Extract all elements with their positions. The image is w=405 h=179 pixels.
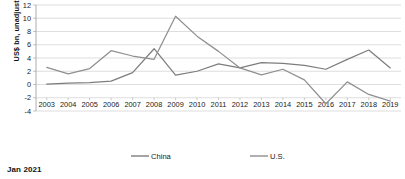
- x-tick-label: 2003: [39, 100, 55, 109]
- y-tick-label: 12: [23, 1, 31, 10]
- x-tick-label: 2009: [167, 100, 183, 109]
- x-tick-label: 2004: [60, 100, 76, 109]
- line-chart-plot: 121086420-2-4 20032004200520062007200820…: [0, 0, 405, 179]
- series-line-u-s: [47, 16, 391, 103]
- x-tick-label: 2015: [296, 100, 312, 109]
- x-tick-label: 2005: [81, 100, 97, 109]
- x-tick-label: 2013: [253, 100, 269, 109]
- x-tick-label: 2014: [275, 100, 291, 109]
- y-tick-label: 2: [27, 67, 31, 76]
- y-tick-label: 8: [27, 27, 31, 36]
- legend-label: U.S.: [270, 152, 285, 161]
- x-tick-label: 2011: [211, 100, 227, 109]
- x-tick-label: 2008: [146, 100, 162, 109]
- x-tick-label: 2012: [232, 100, 248, 109]
- x-tick-label: 2017: [339, 100, 355, 109]
- y-tick-label: 0: [27, 80, 31, 89]
- gridlines: [36, 5, 401, 111]
- y-tick-label: 4: [27, 54, 31, 63]
- y-axis-title: US$ bn, unadjusted: [12, 0, 21, 75]
- y-tick-label: -4: [24, 107, 31, 116]
- x-tick-label: 2006: [103, 100, 119, 109]
- x-tick-label: 2016: [318, 100, 334, 109]
- chart-caption: Jan 2021: [7, 165, 42, 174]
- series-line-china: [47, 49, 391, 84]
- x-tick-label: 2018: [361, 100, 377, 109]
- y-tick-label: 6: [27, 40, 31, 49]
- x-axis-tick-labels: 2003200420052006200720082009201020112012…: [39, 98, 399, 110]
- y-tick-label: -2: [24, 93, 31, 102]
- chart-figure: US$ bn, unadjusted 121086420-2-4 2003200…: [0, 0, 405, 179]
- x-tick-label: 2010: [189, 100, 205, 109]
- y-axis-tick-labels: 121086420-2-4: [23, 1, 36, 116]
- legend-label: China: [151, 152, 172, 161]
- chart-legend: ChinaU.S.: [131, 152, 285, 161]
- data-series: [47, 16, 391, 103]
- x-tick-label: 2007: [124, 100, 140, 109]
- y-tick-label: 10: [23, 14, 31, 23]
